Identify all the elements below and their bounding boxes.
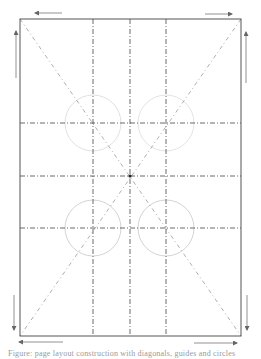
layout-diagram	[0, 0, 261, 359]
figure-caption: Figure: page layout construction with di…	[8, 349, 258, 358]
direction-arrows	[14, 13, 247, 343]
center-point	[128, 174, 131, 177]
